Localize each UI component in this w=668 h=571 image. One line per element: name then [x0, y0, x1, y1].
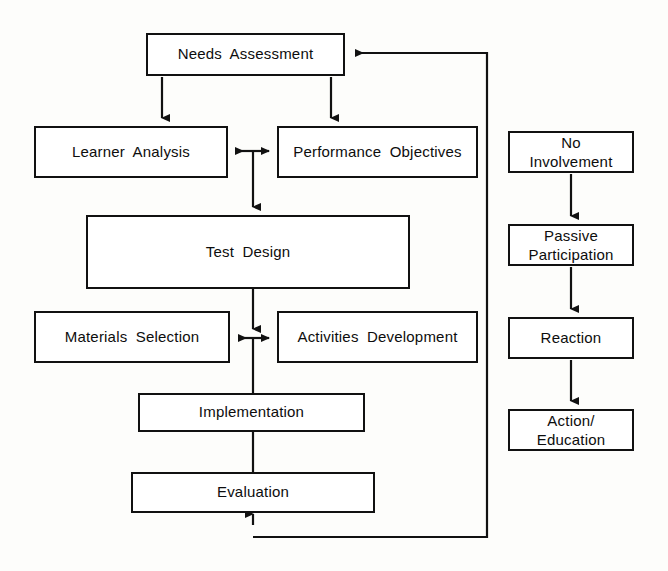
node-action-education-label: Action/ Education — [537, 411, 606, 450]
node-reaction-label: Reaction — [541, 328, 602, 348]
node-passive-participation[interactable]: Passive Participation — [508, 224, 634, 266]
node-evaluation[interactable]: Evaluation — [131, 472, 375, 513]
node-no-involvement-label: No Involvement — [529, 133, 612, 172]
node-materials-selection[interactable]: Materials Selection — [34, 311, 230, 363]
node-performance-objectives-label: Performance Objectives — [293, 143, 461, 162]
flowchart-diagram: Needs Assessment Learner Analysis Perfor… — [0, 0, 668, 571]
node-evaluation-label: Evaluation — [217, 483, 289, 502]
node-test-design[interactable]: Test Design — [86, 215, 410, 289]
node-no-involvement[interactable]: No Involvement — [508, 131, 634, 173]
node-implementation-label: Implementation — [199, 403, 304, 422]
node-activities-development[interactable]: Activities Development — [277, 311, 478, 363]
node-test-design-label: Test Design — [206, 243, 291, 262]
node-needs-assessment[interactable]: Needs Assessment — [146, 33, 345, 76]
node-implementation[interactable]: Implementation — [138, 393, 365, 432]
node-learner-analysis[interactable]: Learner Analysis — [34, 126, 228, 178]
node-learner-analysis-label: Learner Analysis — [72, 143, 190, 162]
node-passive-participation-label: Passive Participation — [528, 226, 613, 265]
node-materials-selection-label: Materials Selection — [65, 328, 200, 347]
node-action-education[interactable]: Action/ Education — [508, 409, 634, 451]
node-needs-assessment-label: Needs Assessment — [178, 45, 314, 64]
node-reaction[interactable]: Reaction — [508, 317, 634, 359]
node-performance-objectives[interactable]: Performance Objectives — [277, 126, 478, 178]
node-activities-development-label: Activities Development — [297, 328, 457, 347]
